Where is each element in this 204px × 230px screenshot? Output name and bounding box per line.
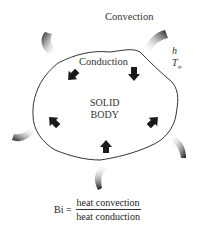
conduction-arrow-bottom	[100, 140, 112, 153]
solid-body-label: SOLID BODY	[90, 97, 119, 121]
conduction-arrow-left	[45, 113, 63, 131]
conduction-label: Conduction	[79, 56, 128, 67]
infinity-subscript: ∞	[178, 64, 182, 70]
convection-arrow-right	[170, 136, 186, 158]
conduction-arrow-right	[145, 113, 163, 131]
formula-lhs: Bi =	[54, 204, 72, 215]
convection-arrow-left	[12, 128, 34, 141]
conduction-arrow-top-left	[64, 67, 82, 85]
ambient-temperature-label: T∞	[172, 57, 182, 70]
solid-label-line1: SOLID	[90, 97, 119, 109]
formula-fraction: heat convection heat conduction	[76, 197, 141, 222]
convection-label: Convection	[105, 11, 153, 22]
convection-arrow-top-left	[42, 32, 56, 54]
conduction-arrow-top-right	[128, 67, 140, 81]
solid-label-line2: BODY	[90, 109, 119, 121]
formula-numerator: heat convection	[76, 197, 141, 210]
convection-arrow-bottom	[95, 164, 108, 190]
biot-number-formula: Bi = heat convection heat conduction	[54, 197, 141, 222]
convection-arrow-top-right	[144, 30, 168, 52]
heat-transfer-coefficient-label: h	[172, 45, 177, 56]
formula-denominator: heat conduction	[76, 210, 140, 222]
